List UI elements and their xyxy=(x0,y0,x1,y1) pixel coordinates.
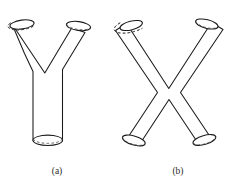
y-bottom-stem-opening xyxy=(33,135,63,145)
figure-container: (a) (b) xyxy=(0,0,238,185)
tube-junction-figure: (a) (b) xyxy=(0,0,238,185)
panel-b-caption: (b) xyxy=(172,166,183,177)
panel-a-caption: (a) xyxy=(52,166,63,177)
